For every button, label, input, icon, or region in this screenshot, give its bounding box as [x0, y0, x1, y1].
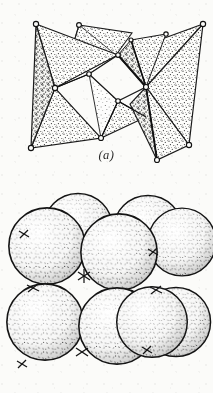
sphere-row-front-lower	[7, 284, 187, 364]
panel-a-caption: (a)	[0, 148, 213, 163]
sphere-packing-diagram	[0, 172, 213, 393]
sphere	[148, 208, 213, 276]
vertex-marker	[186, 142, 191, 147]
sphere	[117, 287, 188, 358]
vertex-marker	[129, 38, 133, 42]
octahedra-group	[28, 21, 205, 162]
vertex-marker	[77, 23, 82, 28]
sphere	[7, 284, 83, 360]
vertex-marker	[116, 53, 121, 58]
sphere	[9, 208, 85, 284]
vertex-marker	[87, 72, 92, 77]
vertex-marker	[200, 21, 205, 26]
sphere-group	[7, 193, 213, 368]
vertex-marker	[33, 21, 38, 26]
sphere	[81, 214, 157, 290]
octahedra-diagram	[0, 0, 213, 172]
vertex-marker	[52, 85, 57, 90]
figure-panel-b: (b)	[0, 172, 213, 393]
vertex-marker	[116, 99, 121, 104]
vertex-marker	[144, 85, 149, 90]
figure-page: (a)	[0, 0, 213, 393]
figure-panel-a: (a)	[0, 0, 213, 172]
vertex-marker	[99, 136, 104, 141]
vertex-marker	[164, 32, 168, 36]
